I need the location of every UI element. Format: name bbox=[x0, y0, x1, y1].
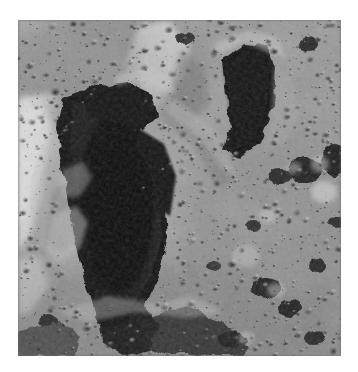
caption-area bbox=[0, 356, 358, 372]
grain-fine bbox=[18, 20, 341, 356]
photo-page bbox=[0, 0, 358, 372]
photo-canvas bbox=[18, 20, 341, 356]
lunar-surface-photograph bbox=[18, 20, 341, 356]
